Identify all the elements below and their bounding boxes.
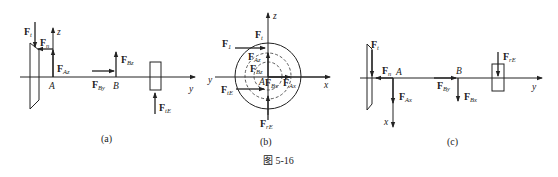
figure-5-16: y z Ft Fn FAz A FBy FBz B FtE (a) x	[0, 0, 558, 177]
panel-c: y Ft Fn A x FAx FBy B FBx FrE (c)	[360, 39, 542, 148]
point-B-label: B	[113, 81, 119, 91]
gear-plate	[30, 43, 39, 109]
y-axis-label: y	[207, 75, 213, 85]
force-F1-label: F1	[222, 38, 231, 50]
force-FrE-label: FrE	[260, 118, 273, 130]
point-A-label: A	[395, 67, 402, 77]
force-FBy-label: FBy	[437, 80, 450, 92]
panel-a-caption: (a)	[101, 133, 112, 145]
panel-c-caption: (c)	[447, 136, 458, 148]
z-axis-label: z	[272, 11, 277, 21]
force-FtE-label: FtE	[221, 84, 233, 96]
force-FBz-label: FBz	[250, 63, 263, 75]
force-FAx-label: FAx	[399, 91, 412, 103]
force-FAx-label: FAx	[283, 77, 296, 89]
z-axis-label: z	[56, 27, 61, 37]
x-axis-label: x	[383, 117, 389, 127]
force-Fn-label: Fn	[382, 65, 391, 77]
x-axis-label: x	[323, 80, 329, 90]
point-A-label: A	[258, 77, 265, 87]
force-FBz-label: FBz	[121, 54, 134, 66]
force-FrE-label: FrE	[503, 51, 516, 63]
y-axis-label: y	[188, 84, 194, 94]
force-FtE-label: FtE	[159, 102, 171, 114]
y-axis-label: y	[531, 82, 537, 92]
force-FBx-label: FBx	[464, 91, 477, 103]
force-Ft-label: Ft	[24, 26, 32, 38]
diagram-canvas: y z Ft Fn FAz A FBy FBz B FtE (a) x	[0, 0, 558, 177]
force-FBy-label: FBy	[92, 79, 105, 91]
panel-b: x z Ft F1 FAz FBz A FBx FAx FtE FrE y (b…	[207, 11, 330, 148]
force-Fn-label: Fn	[40, 37, 49, 49]
point-B-label: B	[456, 66, 462, 76]
gear-plate	[367, 44, 372, 110]
force-FAz-label: FAz	[248, 51, 261, 63]
panel-b-caption: (b)	[260, 136, 272, 148]
pulley-box	[150, 62, 161, 90]
figure-caption: 图 5-16	[263, 155, 294, 166]
force-Ft-label: Ft	[371, 39, 379, 51]
panel-a: y z Ft Fn FAz A FBy FBz B FtE (a)	[20, 22, 195, 145]
point-A-label: A	[48, 81, 55, 91]
force-FBx-label: FBx	[265, 77, 278, 89]
force-Ft-label: Ft	[255, 29, 263, 41]
force-FAz-label: FAz	[57, 63, 70, 75]
